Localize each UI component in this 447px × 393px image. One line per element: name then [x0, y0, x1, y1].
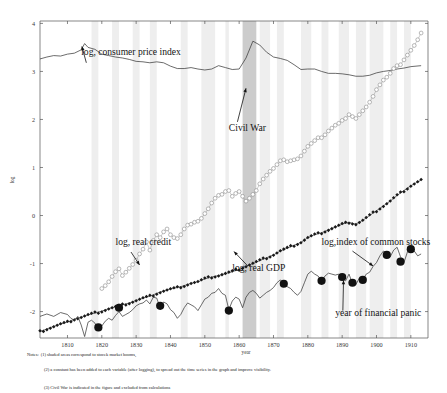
series-marker	[220, 273, 224, 277]
series-marker	[141, 247, 145, 251]
x-tick-label: 1890	[336, 341, 348, 348]
series-marker	[392, 67, 396, 71]
series-marker	[302, 149, 306, 153]
series-marker	[309, 142, 313, 146]
x-tick-label: 1810	[61, 341, 73, 348]
annotation-real-credit: log, real credit	[116, 236, 172, 247]
series-marker	[165, 288, 169, 292]
series-marker	[261, 177, 265, 181]
series-marker	[237, 190, 241, 194]
series-marker	[86, 313, 90, 317]
annotation-real-gdp: log, real GDP	[232, 262, 285, 273]
series-marker	[203, 212, 207, 216]
series-marker	[124, 270, 128, 274]
series-marker	[172, 286, 176, 290]
boom-band	[112, 21, 119, 338]
series-marker	[416, 38, 420, 42]
series-marker	[334, 225, 338, 229]
series-marker	[206, 207, 210, 211]
series-marker	[399, 190, 403, 194]
series-marker	[412, 44, 416, 48]
series-marker	[138, 252, 142, 256]
series-marker	[193, 281, 197, 285]
panic-marker	[280, 280, 288, 288]
series-marker	[196, 219, 200, 223]
series-marker	[378, 83, 382, 87]
series-marker	[399, 63, 403, 67]
boom-band	[404, 21, 411, 338]
y-tick-label: 3	[32, 68, 35, 75]
x-tick-label: 1910	[405, 341, 417, 348]
series-marker	[337, 121, 341, 125]
series-marker	[49, 326, 53, 330]
series-marker	[344, 117, 348, 121]
series-marker	[364, 105, 368, 109]
panic-marker	[317, 277, 325, 285]
series-marker	[416, 180, 420, 184]
annotation-civil-war: Civil War	[229, 122, 267, 133]
series-marker	[313, 139, 317, 143]
y-tick-label: 1	[32, 164, 35, 171]
boom-band	[277, 21, 284, 338]
series-marker	[361, 109, 365, 113]
series-marker	[385, 75, 389, 79]
series-marker	[83, 314, 87, 318]
boom-band	[150, 21, 157, 338]
x-tick-label: 1850	[199, 341, 211, 348]
panic-marker	[115, 304, 123, 312]
series-marker	[210, 201, 214, 205]
annotation-cpi: log, consumer price index	[81, 46, 181, 57]
series-marker	[59, 322, 63, 326]
y-tick-label: -1	[30, 260, 35, 267]
series-marker	[79, 316, 83, 320]
series-marker	[227, 189, 231, 193]
series-marker	[265, 173, 269, 177]
series-marker	[244, 199, 248, 203]
boom-band	[92, 21, 99, 338]
boom-band	[322, 21, 329, 338]
series-marker	[42, 330, 46, 334]
series-marker	[165, 227, 169, 231]
series-marker	[419, 31, 423, 35]
series-marker	[375, 88, 379, 92]
series-marker	[289, 244, 293, 248]
notes-line-2: (2) a constant has been added to each va…	[44, 367, 271, 372]
series-marker	[107, 307, 111, 311]
series-marker	[371, 95, 375, 99]
series-marker	[402, 58, 406, 62]
series-marker	[141, 296, 145, 300]
notes-block: Notes: (1) shaded areas correspond to st…	[27, 352, 447, 393]
series-marker	[368, 100, 372, 104]
series-marker	[320, 136, 324, 140]
series-marker	[213, 196, 217, 200]
panic-marker	[94, 323, 102, 331]
series-marker	[258, 182, 262, 186]
x-tick-label: 1860	[233, 341, 245, 348]
boom-band	[370, 21, 384, 338]
series-marker	[241, 194, 245, 198]
y-tick-label: -2	[30, 308, 35, 315]
series-marker	[199, 217, 203, 221]
series-marker	[69, 320, 73, 324]
series-marker	[248, 196, 252, 200]
series-marker	[175, 237, 179, 241]
boom-band	[301, 21, 311, 338]
x-tick-label: 1880	[302, 341, 314, 348]
series-marker	[323, 133, 327, 137]
series-marker	[169, 287, 173, 291]
series-marker	[296, 157, 300, 161]
notes-label: Notes:	[27, 352, 39, 357]
series-marker	[272, 167, 276, 171]
x-tick-label: 1820	[96, 341, 108, 348]
series-marker	[148, 248, 152, 252]
y-tick-label: 0	[32, 212, 35, 219]
series-marker	[409, 48, 413, 52]
boom-band	[133, 21, 140, 338]
series-marker	[275, 163, 279, 167]
panic-marker	[348, 279, 356, 287]
series-marker	[217, 274, 221, 278]
series-marker	[357, 113, 361, 117]
annotation-financial-panic: year of financial panic	[335, 307, 421, 318]
series-marker	[189, 282, 193, 286]
